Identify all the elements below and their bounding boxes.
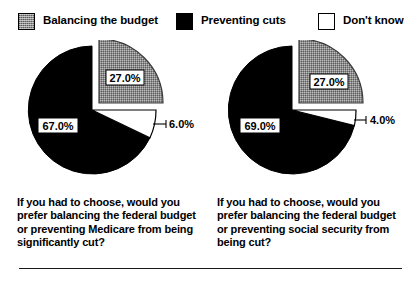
pie-chart-medicare: 27.0% 67.0% 6.0%	[14, 40, 214, 192]
pie-label-balancing-text: 27.0%	[313, 76, 344, 88]
legend-item-balancing-the-budget: Balancing the budget	[18, 13, 158, 30]
pie-slice-balancing-the-budget	[299, 40, 363, 103]
pie-label-balancing-the-budget: 27.0%	[310, 74, 348, 89]
legend-label-dont-know: Don't know	[343, 15, 404, 27]
pie-svg-medicare: 27.0% 67.0% 6.0%	[14, 40, 214, 192]
pie-label-preventing-cuts: 67.0%	[38, 118, 78, 133]
pie-label-balancing-text: 27.0%	[109, 72, 140, 84]
pie-label-preventing-cuts: 69.0%	[240, 118, 280, 133]
legend-item-preventing-cuts: Preventing cuts	[176, 13, 286, 30]
pie-label-preventing-text: 67.0%	[42, 120, 73, 132]
caption-social-security: If you had to choose, would you prefer b…	[217, 196, 403, 250]
chart-captions: If you had to choose, would you prefer b…	[0, 196, 417, 258]
pie-label-preventing-text: 69.0%	[244, 120, 275, 132]
pie-svg-social-security: 27.0% 69.0% 4.0%	[214, 40, 414, 192]
legend-label-preventing-cuts: Preventing cuts	[201, 15, 286, 27]
legend-label-balancing-the-budget: Balancing the budget	[43, 15, 158, 27]
white-square-swatch-icon	[318, 13, 335, 30]
charts-row: 27.0% 67.0% 6.0%	[0, 40, 417, 192]
pie-label-dont-know-text: 6.0%	[169, 118, 194, 130]
legend-item-dont-know: Don't know	[318, 13, 404, 30]
pie-label-balancing-the-budget: 27.0%	[106, 70, 144, 85]
pie-label-dont-know-text: 4.0%	[370, 114, 395, 126]
caption-medicare: If you had to choose, would you prefer b…	[17, 196, 203, 250]
black-square-swatch-icon	[176, 13, 193, 30]
chart-legend: Balancing the budget Preventing cuts Don…	[0, 8, 417, 34]
gray-square-swatch-icon	[18, 13, 35, 30]
footer-divider	[19, 268, 402, 269]
pie-chart-social-security: 27.0% 69.0% 4.0%	[214, 40, 414, 192]
